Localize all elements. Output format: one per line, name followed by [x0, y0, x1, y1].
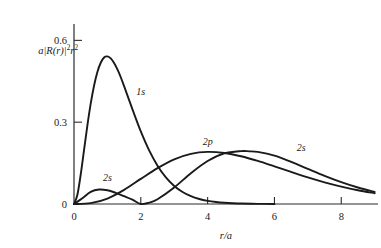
curve-2s	[74, 151, 375, 204]
x-tick-label: 0	[71, 211, 76, 222]
curve-label-2s-3: 2s	[297, 142, 306, 153]
curve-label-1s-0: 1s	[136, 86, 145, 97]
x-tick-label: 6	[272, 211, 277, 222]
y-tick-label-group: 00.30.6	[54, 35, 67, 210]
curve-label-2p-2: 2p	[203, 136, 213, 147]
curve-label-group: 1s2s2p2s	[103, 86, 306, 183]
x-tick-label-group: 02468	[71, 211, 344, 222]
y-axis-title-text: a|R(r)|2r2	[38, 45, 78, 56]
radial-distribution-plot: 00.30.6 02468 r/a 1s2s2p2s	[0, 0, 381, 248]
x-tick-label: 2	[138, 211, 143, 222]
y-tick-label: 0.3	[54, 117, 67, 128]
curve-label-2s-1: 2s	[103, 172, 112, 183]
figure-container: a|R(r)|2r2 00.30.6 02468 r/a 1s2s2p2s	[0, 0, 381, 248]
y-axis-title: a|R(r)|2r2	[16, 44, 78, 56]
x-axis-title: r/a	[220, 230, 232, 241]
y-tick-label: 0	[62, 199, 67, 210]
x-tick-label: 4	[205, 211, 211, 222]
curve-group	[74, 56, 375, 204]
x-tick-label: 8	[339, 211, 344, 222]
